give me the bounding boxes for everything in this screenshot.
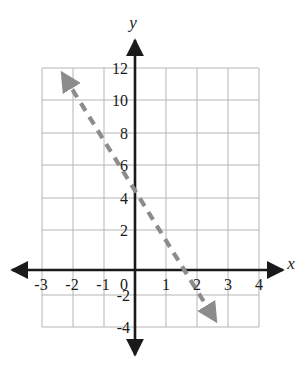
x-tick-label: 3: [224, 276, 232, 293]
y-tick-label: 4: [120, 190, 128, 207]
x-tick-label: 4: [255, 276, 263, 293]
plotted-line: [64, 76, 214, 318]
linear-function-dashed-line: [64, 76, 214, 318]
x-tick-label: -2: [65, 276, 78, 293]
y-tick-label: 2: [120, 222, 128, 239]
y-tick-label: 10: [112, 92, 128, 109]
y-tick-label: 8: [120, 125, 128, 142]
x-tick-label: -3: [34, 276, 47, 293]
x-tick-label: 2: [193, 276, 201, 293]
y-tick-label: -2: [117, 287, 130, 304]
x-axis-label: x: [286, 254, 295, 273]
x-tick-label: 1: [162, 276, 170, 293]
y-axis-label: y: [127, 13, 137, 32]
y-tick-label: 12: [112, 60, 128, 77]
x-tick-label: -1: [96, 276, 109, 293]
y-tick-label: -4: [117, 319, 130, 336]
graph-figure: x y -3 -2 -1 0 1 2 3 4 12 10 8 6 4 2 -2 …: [0, 0, 307, 366]
y-tick-label: 6: [120, 157, 128, 174]
coordinate-plane: x y -3 -2 -1 0 1 2 3 4 12 10 8 6 4 2 -2 …: [0, 0, 307, 366]
x-tick-labels: -3 -2 -1 0 1 2 3 4: [34, 276, 263, 293]
